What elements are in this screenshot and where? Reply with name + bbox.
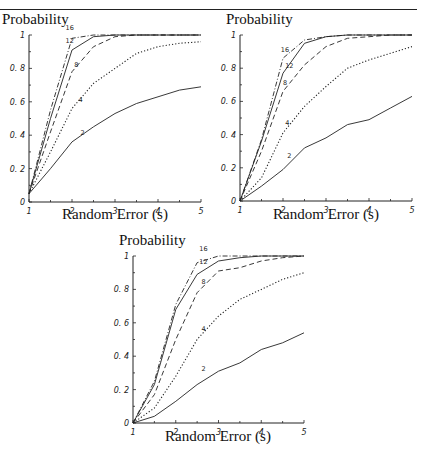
series-8	[240, 35, 412, 201]
y-tick-label: 0. 4	[114, 352, 129, 361]
y-tick-label: 0. 4	[10, 131, 25, 140]
series-2	[240, 96, 412, 201]
series-label: 16	[66, 24, 74, 32]
series-16	[240, 35, 412, 201]
y-axis-label: Probability	[119, 232, 186, 248]
series-label: 2	[201, 365, 205, 373]
chart-panel-1: 00. 20. 40. 60. 8112345ProbabilityRandom…	[2, 11, 204, 223]
y-tick-label: 1	[231, 31, 236, 40]
series-label: 2	[81, 129, 85, 137]
series-label: 12	[285, 62, 293, 70]
series-label: 4	[285, 119, 289, 127]
y-tick-label: 0. 4	[221, 131, 236, 140]
y-tick-label: 0. 2	[114, 386, 129, 395]
series-label: 4	[201, 325, 205, 333]
y-tick-label: 0. 6	[221, 97, 236, 106]
series-2	[29, 87, 201, 194]
chart-panel-2: 00. 20. 40. 60. 8112345ProbabilityRandom…	[221, 11, 415, 223]
x-axis-label: Random Error (s)	[62, 206, 168, 223]
y-tick-label: 0. 6	[114, 319, 129, 328]
y-tick-label: 0. 8	[10, 64, 25, 73]
series-4	[133, 273, 304, 423]
series-16	[29, 35, 201, 194]
x-tick-label: 1	[130, 428, 135, 437]
x-tick-label: 5	[409, 206, 414, 215]
y-tick-label: 0	[124, 419, 129, 428]
series-label: 12	[199, 258, 207, 266]
series-label: 12	[66, 37, 74, 45]
y-tick-label: 0	[20, 198, 25, 207]
series-2	[133, 333, 304, 423]
y-tick-label: 0. 2	[10, 165, 25, 174]
x-tick-label: 5	[198, 207, 203, 216]
series-4	[29, 42, 201, 194]
series-label: 8	[201, 278, 205, 286]
y-axis-label: Probability	[226, 11, 293, 27]
series-8	[29, 35, 201, 194]
series-label: 16	[281, 46, 289, 54]
series-label: 4	[78, 96, 82, 104]
series-12	[29, 35, 201, 194]
x-axis-label: Random Error (s)	[273, 206, 379, 223]
y-axis-label: Probability	[2, 11, 69, 27]
y-tick-label: 1	[124, 252, 129, 261]
x-axis-label: Random Error (s)	[165, 428, 271, 445]
x-tick-label: 1	[237, 206, 242, 215]
series-label: 16	[199, 245, 207, 253]
figure-canvas: 00. 20. 40. 60. 8112345ProbabilityRandom…	[0, 0, 426, 460]
series-label: 2	[287, 152, 291, 160]
series-12	[240, 35, 412, 201]
x-tick-label: 5	[301, 428, 306, 437]
x-tick-label: 1	[26, 207, 31, 216]
y-tick-label: 0. 2	[221, 164, 236, 173]
series-label: 8	[74, 61, 78, 69]
y-tick-label: 0. 8	[221, 64, 236, 73]
y-tick-label: 0	[231, 197, 236, 206]
y-tick-label: 1	[20, 31, 25, 40]
series-label: 8	[283, 79, 287, 87]
y-tick-label: 0. 8	[114, 285, 129, 294]
chart-panel-3: 00. 20. 40. 60. 8112345ProbabilityRandom…	[114, 232, 307, 445]
y-tick-label: 0. 6	[10, 98, 25, 107]
